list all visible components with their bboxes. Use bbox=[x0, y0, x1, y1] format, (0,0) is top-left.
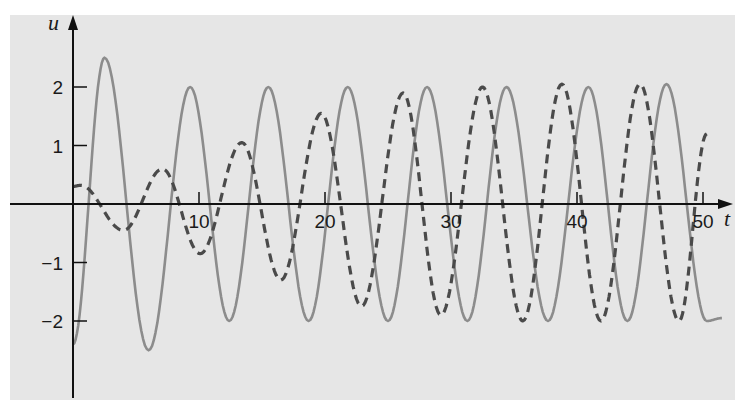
x-tick-label: 50 bbox=[692, 211, 713, 232]
y-tick-label: −1 bbox=[41, 253, 63, 274]
axes: 1020304050−2−112 t u bbox=[10, 10, 733, 398]
x-tick-label: 40 bbox=[566, 211, 587, 232]
x-axis-label: t bbox=[724, 206, 731, 231]
x-tick-label: 30 bbox=[440, 211, 461, 232]
series-dashed-line bbox=[73, 84, 707, 321]
y-axis-arrow-icon bbox=[68, 15, 78, 30]
chart-svg: 1020304050−2−112 t u bbox=[0, 0, 746, 404]
y-tick-label: 2 bbox=[52, 77, 63, 98]
y-tick-label: −2 bbox=[41, 311, 63, 332]
y-tick-label: 1 bbox=[52, 136, 63, 157]
y-axis-label: u bbox=[48, 10, 59, 35]
chart-figure: 1020304050−2−112 t u bbox=[0, 0, 746, 404]
x-tick-label: 20 bbox=[314, 211, 335, 232]
x-tick-label: 10 bbox=[188, 211, 209, 232]
